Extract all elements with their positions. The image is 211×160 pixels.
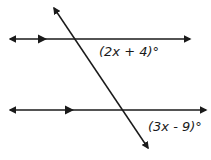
top-parallel-line <box>10 35 190 44</box>
parallel-marker-arrow-icon <box>65 106 74 115</box>
transversal-line <box>54 8 148 148</box>
angle-label-top: (2x + 4)° <box>99 44 159 59</box>
parallel-marker-arrow-icon <box>38 35 47 44</box>
parallel-lines-diagram: (2x + 4)° (3x - 9)° <box>0 0 211 160</box>
angle-label-bottom: (3x - 9)° <box>148 119 202 134</box>
bottom-parallel-line <box>10 106 206 115</box>
